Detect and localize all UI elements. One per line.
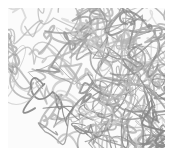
fiber-texture-image [8,8,165,148]
fiber-texture-svg [8,8,165,148]
